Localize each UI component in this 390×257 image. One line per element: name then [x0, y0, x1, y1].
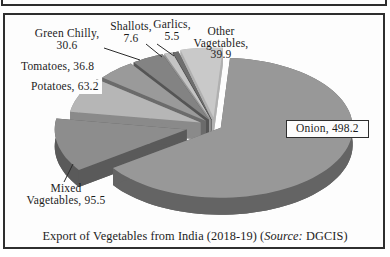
slice-label-line: Garlics, [153, 19, 191, 31]
slice-label-tomatoes: Tomatoes, 36.8 [21, 61, 94, 73]
leader-line [104, 48, 140, 60]
slice-label-line: Shallots, [110, 21, 152, 33]
chart-title-text: Export of Vegetables from India (2018-19… [42, 229, 264, 243]
slice-label-line: Green Chilly, [35, 28, 99, 40]
figure-root: Green Chilly, 30.6 Shallots, 7.6 Garlics… [0, 0, 390, 257]
slice-label-line: Mixed [27, 183, 106, 195]
slice-label-line: Vagetables, 95.5 [27, 195, 106, 207]
slice-label-line: Other [194, 26, 249, 38]
slice-label-mixed-vegetables: Mixed Vagetables, 95.5 [27, 183, 106, 206]
slice-label-line: Potatoes, 63.2 [31, 81, 99, 93]
chart-title: Export of Vegetables from India (2018-19… [0, 229, 390, 244]
slice-label-other-vegetables: Other Vagetables, 39.9 [194, 26, 249, 61]
slice-label-line: Onion, 498.2 [296, 123, 359, 135]
chart-title-source-word: Source: [264, 229, 303, 243]
slice-label-green-chilly: Green Chilly, 30.6 [35, 28, 99, 51]
slice-label-line: 30.6 [35, 40, 99, 52]
slice-label-line: 7.6 [110, 33, 152, 45]
slice-label-line: 5.5 [153, 31, 191, 43]
slice-label-line: 39.9 [194, 49, 249, 61]
chart-title-text: DGCIS) [303, 229, 348, 243]
slice-label-shallots: Shallots, 7.6 [110, 21, 152, 44]
slice-label-potatoes: Potatoes, 63.2 [28, 80, 102, 94]
slice-label-onion: Onion, 498.2 [286, 120, 369, 138]
slice-label-garlics: Garlics, 5.5 [153, 19, 191, 42]
slice-label-line: Tomatoes, 36.8 [21, 61, 94, 73]
